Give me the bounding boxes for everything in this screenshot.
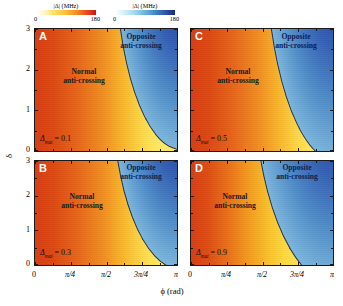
parameter-value: = 0.5 [210,134,227,143]
colorbar-tick-high: 180 [170,15,179,22]
region-label-normal-line1: Normal [41,192,123,201]
region-label-opposite-line2: anti-crossing [259,41,333,50]
panel-parameter-D: Δmat = 0.9 [196,248,227,261]
panel-label-B: B [39,162,47,174]
xtick-label: π/4 [214,270,238,279]
xtick-label: π/2 [250,270,274,279]
colorbar-tick-low: 0 [34,15,37,22]
region-label-opposite-line1: Opposite [104,163,178,172]
ytick-label: 3 [16,156,30,165]
panel-parameter-A: Δmat = 0.1 [40,134,71,147]
region-label-normal-line2: anti-crossing [197,76,279,85]
region-label-normal: Normal anti-crossing [195,192,275,210]
panel-label-D: D [195,162,203,174]
region-label-opposite-line1: Opposite [105,32,177,41]
xtick-label: 0 [178,270,202,279]
panel-parameter-B: Δmat = 0.3 [40,248,71,261]
colorbar-title: |Δ| (MHz) [36,2,96,9]
region-label-normal-line2: anti-crossing [43,76,125,85]
panel-label-C: C [195,30,203,42]
colorbar-title: |Δ| (MHz) [115,2,175,9]
x-axis-title: ϕ (rad) [140,286,204,296]
xtick-label: 0 [22,270,46,279]
ytick-label: 1 [16,105,30,114]
xtick-label: 3π/4 [285,270,309,279]
region-label-normal: Normal anti-crossing [41,192,123,210]
colorbar-tick-low: 0 [113,15,116,22]
ytick-label: 2 [16,190,30,199]
region-label-normal: Normal anti-crossing [197,67,279,85]
panel-C: C Normal anti-crossing Opposite anti-cro… [190,28,334,152]
parameter-subscript: mat [45,139,53,145]
normal-anticrossing-colorbar: |Δ| (MHz) 0 180 [36,2,96,22]
region-label-normal: Normal anti-crossing [43,67,125,85]
xtick-label: π/4 [58,270,82,279]
colorbar-gradient-cool [115,10,175,15]
xtick-label: 3π/4 [129,270,153,279]
region-label-normal-line1: Normal [43,67,125,76]
region-label-opposite-line2: anti-crossing [105,41,177,50]
parameter-subscript: mat [201,139,209,145]
colorbar-gradient-warm [36,10,96,15]
ytick-label: 1 [16,225,30,234]
region-label-opposite-line2: anti-crossing [104,172,178,181]
ytick-label: 2 [16,64,30,73]
ytick-label: 0 [16,259,30,268]
parameter-value: = 0.3 [54,248,71,257]
ytick-label: 3 [16,24,30,33]
region-label-normal-line1: Normal [197,67,279,76]
region-label-opposite-line1: Opposite [259,32,333,41]
y-axis-title: δ [4,154,14,158]
region-label-opposite: Opposite anti-crossing [105,32,177,50]
parameter-subscript: mat [201,253,209,259]
region-label-opposite: Opposite anti-crossing [260,163,334,181]
xtick-label: π/2 [94,270,118,279]
region-label-normal-line2: anti-crossing [195,201,275,210]
region-label-opposite: Opposite anti-crossing [259,32,333,50]
colorbar-tick-high: 180 [91,15,100,22]
figure-canvas: |Δ| (MHz) 0 180 |Δ| (MHz) 0 180 A Normal… [0,0,343,306]
panel-parameter-C: Δmat = 0.5 [196,134,227,147]
parameter-value: = 0.1 [54,134,71,143]
parameter-value: = 0.9 [210,248,227,257]
region-label-opposite: Opposite anti-crossing [104,163,178,181]
region-label-opposite-line2: anti-crossing [260,172,334,181]
region-label-normal-line2: anti-crossing [41,201,123,210]
panel-label-A: A [39,30,47,42]
ytick-label: 0 [16,145,30,154]
parameter-subscript: mat [45,253,53,259]
region-label-normal-line1: Normal [195,192,275,201]
panel-B: B Normal anti-crossing Opposite anti-cro… [34,160,178,266]
panel-A: A Normal anti-crossing Opposite anti-cro… [34,28,178,152]
region-label-opposite-line1: Opposite [260,163,334,172]
opposite-anticrossing-colorbar: |Δ| (MHz) 0 180 [115,2,175,22]
xtick-label: π [320,270,343,279]
panel-D: D Normal anti-crossing Opposite anti-cro… [190,160,334,266]
